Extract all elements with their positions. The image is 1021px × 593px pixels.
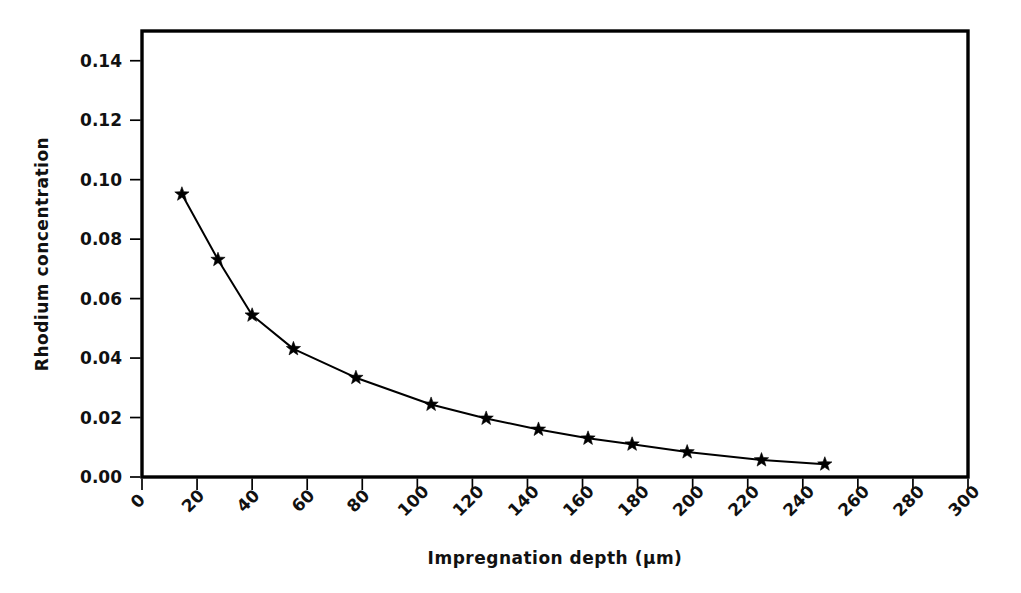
data-point-marker-5 — [424, 397, 438, 411]
x-tick-label: 60 — [288, 485, 319, 516]
x-tick-label: 180 — [614, 481, 653, 520]
x-tick-label: 200 — [669, 481, 708, 520]
x-tick-label: 0 — [126, 489, 149, 512]
x-tick-label: 40 — [232, 485, 263, 516]
data-point-marker-10 — [680, 445, 694, 459]
data-point-marker-4 — [349, 370, 363, 384]
y-tick-label: 0.12 — [80, 110, 122, 130]
x-tick-label: 240 — [779, 481, 818, 520]
data-point-marker-8 — [581, 431, 595, 445]
data-point-marker-9 — [625, 437, 639, 451]
data-point-marker-12 — [818, 457, 832, 471]
data-point-marker-7 — [531, 422, 545, 436]
x-tick-label: 80 — [343, 485, 374, 516]
data-point-marker-6 — [479, 411, 493, 425]
y-tick-label: 0.02 — [80, 408, 122, 428]
x-tick-label: 260 — [834, 481, 873, 520]
y-tick-label: 0.06 — [80, 289, 122, 309]
line-chart: 0204060801001201401601802002202402602803… — [0, 0, 1021, 593]
data-point-marker-3 — [286, 341, 300, 355]
x-tick-label: 140 — [504, 481, 543, 520]
x-tick-label: 20 — [177, 485, 208, 516]
x-tick-label: 120 — [449, 481, 488, 520]
x-tick-label: 280 — [889, 481, 928, 520]
y-tick-label: 0.00 — [80, 467, 122, 487]
y-tick-label: 0.10 — [80, 170, 122, 190]
x-tick-label: 160 — [559, 481, 598, 520]
data-series-line — [182, 194, 825, 464]
data-point-marker-1 — [211, 252, 225, 266]
x-tick-label: 100 — [393, 481, 432, 520]
data-point-marker-11 — [754, 453, 768, 467]
plot-frame — [142, 31, 968, 477]
y-tick-label: 0.04 — [80, 348, 122, 368]
x-tick-label: 300 — [944, 481, 983, 520]
y-tick-label: 0.14 — [80, 51, 122, 71]
x-axis-title: Impregnation depth (µm) — [428, 548, 683, 568]
chart-figure: 0204060801001201401601802002202402602803… — [0, 0, 1021, 593]
data-point-marker-0 — [175, 187, 189, 201]
x-tick-label: 220 — [724, 481, 763, 520]
y-tick-label: 0.08 — [80, 229, 122, 249]
y-axis-title: Rhodium concentration — [32, 137, 52, 371]
